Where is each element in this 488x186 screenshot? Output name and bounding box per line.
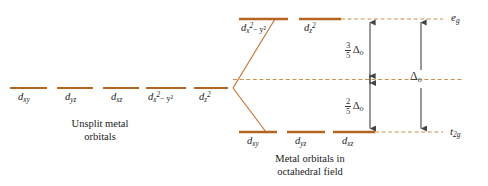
t2g-orbital-label-dyz: dyz	[295, 136, 306, 148]
fraction-numerator: 3	[345, 41, 351, 50]
eg-orbital-label-dz2: dz2	[304, 23, 316, 35]
unsplit-orbital-label-dx2y2: dx2− y²	[148, 92, 173, 104]
upper-split-fraction: 3 5	[345, 41, 351, 59]
term-sub: g	[456, 16, 460, 25]
unsplit-orbital-label-dxz: dxz	[111, 92, 122, 104]
t2g-orbital-label-dxz: dxz	[342, 136, 353, 148]
delta-sub: o	[360, 104, 364, 113]
orb-sub: xz	[347, 140, 353, 148]
upper-split-annotation: 3 5 Δo	[345, 41, 364, 59]
orb-sub: yz	[300, 140, 306, 148]
eg-orbital-label-dx2y2: dx2− y²	[241, 23, 266, 35]
unsplit-orbital-label-dxy: dxy	[18, 92, 30, 104]
orb-sub: xz	[116, 96, 122, 104]
unsplit-caption: Unsplit metal orbitals	[40, 117, 160, 143]
fraction-numerator: 2	[345, 97, 351, 106]
orb-sup: 2	[207, 91, 211, 99]
octahedral-caption-line1: Metal orbitals in	[235, 152, 385, 165]
connector-to-t2g	[233, 88, 266, 132]
orb-sup: 2	[312, 22, 316, 30]
fraction-denominator: 5	[345, 106, 351, 116]
total-split-annotation: Δo	[410, 70, 422, 84]
orb-sub: xy	[23, 96, 29, 104]
orb-sub: xy	[252, 140, 258, 148]
delta-sub: o	[360, 48, 364, 57]
orb-sub: yz	[70, 96, 76, 104]
crystal-field-splitting-diagram: dxy dyz dxz dx2− y² dz2 Unsplit metal or…	[0, 0, 488, 186]
octahedral-caption: Metal orbitals in octahedral field	[235, 152, 385, 178]
unsplit-caption-line2: orbitals	[40, 130, 160, 143]
orb-tail: − y²	[160, 94, 173, 103]
splitting-connector-lines	[233, 19, 275, 132]
octahedral-caption-line2: octahedral field	[235, 165, 385, 178]
fraction-denominator: 5	[345, 50, 351, 60]
t2g-term-label: t2g	[450, 126, 461, 138]
delta-glyph: Δ	[410, 69, 418, 83]
t2g-orbital-label-dxy: dxy	[247, 136, 259, 148]
unsplit-orbital-label-dyz: dyz	[65, 92, 76, 104]
orb-tail: − y²	[253, 25, 266, 34]
delta-symbol: Δo	[353, 100, 364, 112]
delta-glyph: Δ	[353, 43, 360, 55]
delta-glyph: Δ	[353, 99, 360, 111]
term-sub: 2g	[453, 130, 461, 139]
delta-sub: o	[418, 75, 422, 84]
delta-symbol: Δo	[353, 44, 364, 56]
unsplit-orbital-label-dz2: dz2	[199, 92, 211, 104]
lower-split-annotation: 2 5 Δo	[345, 97, 364, 115]
eg-term-label: eg	[451, 12, 460, 24]
lower-split-fraction: 2 5	[345, 97, 351, 115]
unsplit-caption-line1: Unsplit metal	[40, 117, 160, 130]
